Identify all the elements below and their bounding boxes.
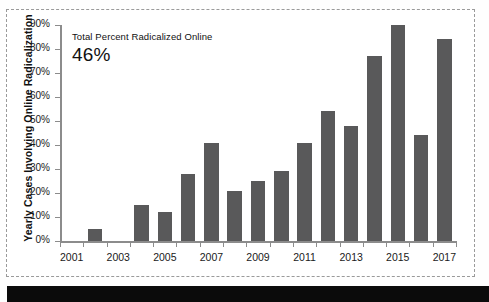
x-tick <box>107 241 108 247</box>
bar <box>251 181 265 241</box>
bar <box>227 191 241 241</box>
x-tick <box>153 241 154 247</box>
bar <box>391 25 405 241</box>
x-tick <box>363 241 364 247</box>
y-tick-label: 80% <box>30 42 50 53</box>
annotation-label: Total Percent Radicalized Online <box>72 31 213 42</box>
chart-annotation: Total Percent Radicalized Online 46% <box>72 31 213 66</box>
x-tick <box>386 241 387 247</box>
y-tick: 50% <box>55 121 60 122</box>
x-tick <box>340 241 341 247</box>
x-tick-label: 2003 <box>107 251 130 263</box>
x-tick-label: 2015 <box>386 251 409 263</box>
x-tick <box>316 241 317 247</box>
y-tick-label: 60% <box>30 90 50 101</box>
y-axis-line <box>60 25 62 241</box>
bar <box>297 143 311 241</box>
x-tick-label: 2013 <box>339 251 362 263</box>
x-axis-line <box>60 241 456 243</box>
bar <box>88 229 102 241</box>
scan-bottom-strip <box>7 286 489 302</box>
y-tick-label: 30% <box>30 162 50 173</box>
y-tick-label: 70% <box>30 66 50 77</box>
x-tick <box>293 241 294 247</box>
x-tick <box>246 241 247 247</box>
y-tick: 40% <box>55 145 60 146</box>
bar <box>321 111 335 241</box>
y-tick-label: 50% <box>30 114 50 125</box>
bar <box>181 174 195 241</box>
x-tick <box>270 241 271 247</box>
y-tick: 30% <box>55 169 60 170</box>
y-tick: 10% <box>55 217 60 218</box>
y-tick: 80% <box>55 49 60 50</box>
x-tick <box>200 241 201 247</box>
bar <box>437 39 451 241</box>
x-tick <box>409 241 410 247</box>
bar <box>414 135 428 241</box>
y-tick: 20% <box>55 193 60 194</box>
x-tick-label: 2009 <box>246 251 269 263</box>
bar <box>274 171 288 241</box>
x-tick <box>60 241 61 247</box>
y-tick-label: 20% <box>30 186 50 197</box>
x-tick-label: 2007 <box>200 251 223 263</box>
y-tick-label: 0% <box>36 234 50 245</box>
x-tick <box>130 241 131 247</box>
y-tick-label: 90% <box>30 18 50 29</box>
x-tick-label: 2011 <box>293 251 316 263</box>
y-tick-label: 10% <box>30 210 50 221</box>
x-tick-label: 2001 <box>60 251 83 263</box>
screenshot-page: Yearly Cases Involving Online Radicaliza… <box>0 0 489 302</box>
x-tick <box>223 241 224 247</box>
bar <box>204 143 218 241</box>
bar <box>158 212 172 241</box>
bar <box>134 205 148 241</box>
annotation-value: 46% <box>72 44 213 66</box>
x-tick <box>456 241 457 247</box>
y-tick-label: 40% <box>30 138 50 149</box>
bar <box>367 56 381 241</box>
x-tick-label: 2017 <box>433 251 456 263</box>
y-tick: 60% <box>55 97 60 98</box>
y-tick: 90% <box>55 25 60 26</box>
x-tick <box>83 241 84 247</box>
bar-chart: Yearly Cases Involving Online Radicaliza… <box>6 9 475 277</box>
x-tick <box>433 241 434 247</box>
x-tick <box>176 241 177 247</box>
y-tick: 70% <box>55 73 60 74</box>
bar <box>344 126 358 241</box>
x-tick-label: 2005 <box>153 251 176 263</box>
